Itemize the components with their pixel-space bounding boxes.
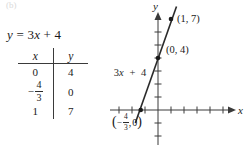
fraction-denominator: 3 (123, 124, 129, 132)
main-equation-variable: x (34, 27, 40, 42)
table-cell-x: 0 (18, 64, 53, 81)
graph-panel: y x (1, 7) (0, 4) y = 3x + 4 ( − 4 (110, 0, 245, 148)
graph-equation-label: y = 3x + 4 (110, 67, 147, 78)
table-cell-y: 4 (53, 64, 88, 81)
table-cell-y: 7 (53, 103, 88, 119)
fraction-numerator: 4 (123, 113, 129, 121)
point-1-7 (169, 17, 174, 22)
point-label-0-4: (0, 4) (166, 44, 189, 56)
line-graph (135, 7, 176, 124)
point-0-4 (156, 56, 161, 61)
root-comma: , (129, 117, 132, 128)
y-axis-label: y (152, 0, 158, 12)
fraction-stack: 4 3 (35, 80, 43, 103)
root-close-paren: ) (137, 115, 142, 129)
fraction-numerator: 4 (35, 80, 42, 90)
equation-and-table-panel: y = 3x + 4 x y 0 4 (0, 0, 110, 148)
main-equation-lhs: y (7, 27, 13, 42)
table-header-y: y (53, 48, 88, 64)
main-equation: y = 3x + 4 (7, 27, 61, 43)
table-cell-y: 0 (53, 80, 88, 103)
x-axis-label: x (237, 104, 243, 116)
point-root (138, 108, 143, 113)
figure-container: (b) y = 3x + 4 x y 0 4 (0, 0, 245, 148)
table-row: 1 7 (18, 103, 88, 119)
table-cell-x: 1 (18, 103, 53, 119)
table-row: − 4 3 0 (18, 80, 88, 103)
fraction-sign: − (117, 118, 122, 127)
table-row: 0 4 (18, 64, 88, 81)
table-header-x: x (18, 48, 53, 64)
fraction-denominator: 3 (35, 93, 42, 103)
fraction-negative-four-thirds: − 4 3 (28, 80, 43, 103)
fraction-sign: − (28, 86, 34, 97)
graph-equation-var: x (118, 67, 124, 78)
value-table: x y 0 4 − 4 (18, 48, 88, 119)
graph-equation-plus: + (129, 67, 135, 78)
main-equation-plus: + (44, 27, 52, 42)
table-cell-x: − 4 3 (18, 80, 53, 103)
main-equation-constant: 4 (55, 27, 62, 42)
table-header-row: x y (18, 48, 88, 64)
point-label-root: ( − 4 3 , 0 ) (112, 113, 142, 131)
graph-equation-const: 4 (141, 67, 147, 78)
y-axis (155, 12, 162, 145)
fraction-negative-four-thirds-root: − 4 3 (117, 113, 129, 131)
point-label-1-7: (1, 7) (177, 13, 200, 25)
main-equation-equals: = (16, 27, 24, 42)
